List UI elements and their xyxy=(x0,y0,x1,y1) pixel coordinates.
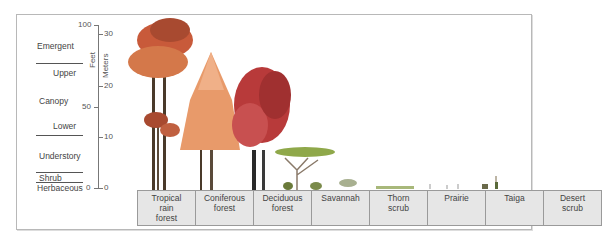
biome-coniferous-forest: Coniferous forest xyxy=(195,190,254,226)
biome-table: Tropical rain forest Coniferous forest D… xyxy=(138,190,602,226)
desert-scrub-icon xyxy=(482,176,498,189)
deciduous-tree-icon xyxy=(232,67,291,190)
biome-desert-scrub: Desert scrub xyxy=(543,190,602,226)
biome-savannah: Savannah xyxy=(311,190,370,226)
biome-taiga: Taiga xyxy=(485,190,544,226)
biome-prairie: Prairie xyxy=(427,190,486,226)
thorn-scrub-icon xyxy=(339,179,357,187)
biome-tropical-rain-forest: Tropical rain forest xyxy=(137,190,196,226)
prairie-grass-icon xyxy=(376,186,414,189)
conifer-tree-icon xyxy=(180,52,240,190)
tropical-tree-icon xyxy=(128,18,193,190)
biome-thorn-scrub: Thorn scrub xyxy=(369,190,428,226)
taiga-plant-icon xyxy=(430,184,458,189)
savanna-tree-icon xyxy=(275,147,335,190)
biome-deciduous-forest: Deciduous forest xyxy=(253,190,312,226)
